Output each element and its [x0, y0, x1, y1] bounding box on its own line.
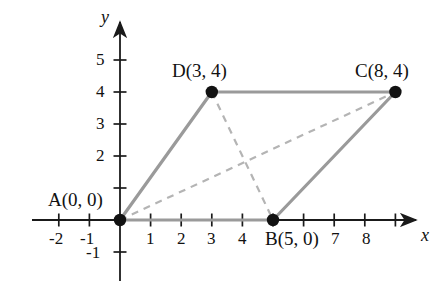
x-tick-label-1: 1	[146, 230, 155, 247]
x-tick-label-4: 4	[238, 230, 247, 247]
x-tick-label-8: 8	[362, 230, 371, 247]
point-D	[206, 86, 218, 98]
point-label-B: B(5, 0)	[265, 229, 319, 248]
point-A	[114, 214, 126, 226]
point-label-A: A(0, 0)	[48, 190, 103, 209]
side-AD	[120, 92, 212, 220]
point-label-D: D(3, 4)	[172, 61, 227, 80]
diagonals-dashed	[120, 92, 395, 220]
y-tick-label-3: 3	[96, 115, 105, 132]
diagonal-DB	[212, 92, 273, 220]
coordinate-plane-figure: y x 5 4 3 2 -1 -2 -1 1 2 3 4 7 8 A(0, 0)…	[0, 0, 445, 297]
y-tick-label-5: 5	[96, 51, 105, 68]
diagonal-AC	[120, 92, 395, 220]
x-tick-label-2: 2	[177, 230, 186, 247]
side-CB	[273, 92, 395, 220]
vertex-points	[114, 86, 402, 226]
y-tick-label-2: 2	[96, 147, 105, 164]
x-tick-label-neg2: -2	[49, 230, 63, 247]
x-axis-label: x	[421, 226, 429, 244]
point-B	[267, 214, 279, 226]
y-tick-label-4: 4	[96, 83, 105, 100]
point-C	[389, 86, 401, 98]
x-tick-label-3: 3	[207, 230, 216, 247]
y-axis-label: y	[101, 8, 109, 26]
x-tick-label-neg1: -1	[80, 230, 94, 247]
point-label-C: C(8, 4)	[355, 61, 409, 80]
x-tick-label-7: 7	[331, 230, 340, 247]
plot-canvas	[0, 0, 445, 297]
